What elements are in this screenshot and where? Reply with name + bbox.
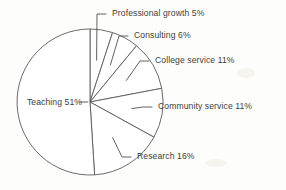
slice-label: Community service 11% <box>158 101 252 111</box>
pie-chart-canvas: Professional growth 5%Consulting 6%Colle… <box>0 0 286 190</box>
slice-label: College service 11% <box>155 55 235 65</box>
slice-label: Consulting 6% <box>134 30 191 40</box>
pie-chart-figure: Professional growth 5%Consulting 6%Colle… <box>0 0 286 190</box>
scan-smudge <box>237 68 255 78</box>
slice-label: Research 16% <box>137 151 195 161</box>
slice-label: Teaching 51% <box>27 97 82 107</box>
slice-label: Professional growth 5% <box>112 8 205 18</box>
scan-smudge <box>205 159 227 167</box>
